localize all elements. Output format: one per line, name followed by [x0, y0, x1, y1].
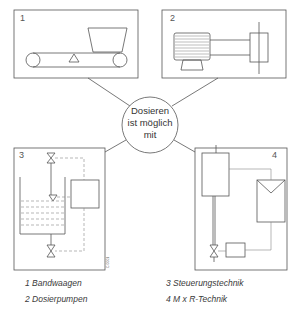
center-label-line2: ist möglich [120, 117, 180, 129]
panel-4-signal-lines [218, 169, 271, 251]
legend-item-2: 2 Dosierpumpen [25, 294, 87, 304]
center-label-line1: Dosieren [120, 105, 180, 117]
panel-3-number: 3 [19, 150, 24, 160]
panel-1-belt-weigher [14, 10, 138, 78]
legend-item-1: 1 Bandwaagen [25, 278, 82, 288]
dosing-overview-diagram [0, 0, 298, 314]
panel-3-control-technology [14, 148, 105, 270]
panel-4-mxr-technology [195, 145, 287, 270]
panel-1-number: 1 [20, 13, 25, 23]
center-label: Dosieren ist möglich mit [120, 105, 180, 141]
panel-3-dashed-lines [21, 158, 84, 251]
legend-item-3: 3 Steuerungstechnik [166, 278, 244, 288]
panel-2-number: 2 [170, 13, 175, 23]
panel-2-dosing-pump [162, 10, 286, 78]
legend-item-4: 4 M x R-Technik [166, 294, 227, 304]
panel-4-number: 4 [272, 150, 277, 160]
figure-code: C 0001 [106, 257, 110, 268]
center-label-line3: mit [120, 129, 180, 141]
